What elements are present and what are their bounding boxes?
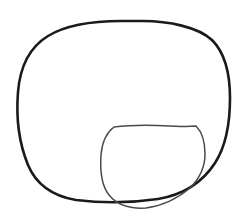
sketch-canvas	[0, 0, 244, 216]
line-drawing	[0, 0, 244, 216]
canvas-background	[0, 0, 244, 216]
